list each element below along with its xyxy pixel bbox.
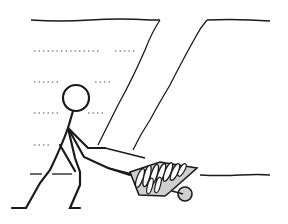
- strata-dots: [34, 51, 135, 145]
- figure-head: [63, 85, 89, 111]
- figure-back-leg: [12, 128, 68, 208]
- figure-torso: [68, 111, 73, 128]
- trench-drawing: [0, 0, 288, 224]
- illustration-canvas: [0, 0, 288, 224]
- ground-bottom-right: [200, 175, 270, 176]
- trench-wall-left: [98, 20, 160, 145]
- ground-top-right: [207, 20, 270, 22]
- trench-wall-right: [133, 20, 207, 150]
- stick-figure: [12, 85, 130, 208]
- ground-top-left: [31, 19, 160, 21]
- wheelbarrow: [130, 162, 197, 201]
